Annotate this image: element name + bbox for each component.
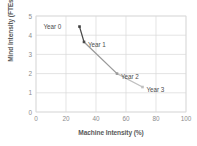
x-axis-tick-label: 0 [26,115,46,122]
y-axis-tick-label: 1 [18,89,32,96]
x-axis-tick-label: 100 [176,115,196,122]
plot-border [36,16,186,112]
data-point-label: Year 3 [147,86,165,93]
x-axis-title: Machine Intensity (%) [36,129,186,136]
x-axis-tick-label: 20 [56,115,76,122]
x-axis-tick-label: 80 [146,115,166,122]
data-point-label: Year 2 [121,73,139,80]
data-point-marker [141,86,144,89]
y-axis-tick-label: 3 [18,51,32,58]
data-point-label: Year 1 [88,41,106,48]
data-point-label: Year 0 [44,23,62,30]
y-axis-tick-label: 5 [18,13,32,20]
x-axis-tick-label: 40 [86,115,106,122]
data-point-marker [78,25,81,28]
data-point-marker [116,72,119,75]
x-axis-tick-label: 60 [116,115,136,122]
chart-container: Mind Intensity (FTEs) Machine Intensity … [0,0,197,146]
data-point-marker [83,41,86,44]
y-axis-title: Mind Intensity (FTEs) [7,0,14,82]
line-segment [80,27,85,42]
y-axis-tick-label: 4 [18,32,32,39]
gridlines [36,16,186,112]
y-axis-tick-label: 2 [18,70,32,77]
